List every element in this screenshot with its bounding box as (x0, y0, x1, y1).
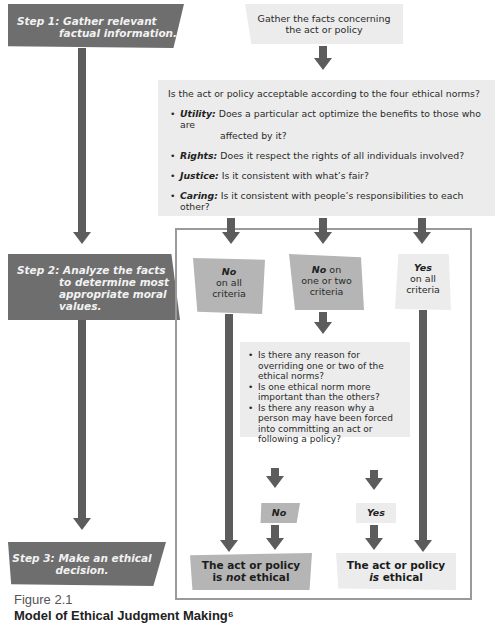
result-not-ethical: The act or policy is not ethical (190, 553, 312, 590)
arrow-down-icon (73, 518, 91, 530)
arrow-shaft (419, 310, 427, 542)
outcome-yes-all: Yes on all criteria (395, 254, 451, 310)
arrow-down-icon (266, 538, 284, 550)
figure-number: Figure 2.1 (14, 592, 73, 607)
result-ethical: The act or policy is ethical (336, 553, 456, 590)
norm-rights: Rights: Does it respect the rights of al… (168, 150, 495, 161)
arrow-down-icon (414, 540, 432, 552)
question-item: Is there any reason why a person may hav… (246, 403, 404, 445)
norms-question: Is the act or policy acceptable accordin… (168, 88, 495, 99)
step-3-banner: Step 3: Make an ethical decision. (8, 542, 166, 586)
arrow-down-icon (413, 232, 431, 244)
answer-no: No (258, 503, 300, 523)
question-item: Is one ethical norm more important than … (246, 382, 404, 403)
override-questions-box: Is there any reason for overriding one o… (240, 342, 410, 437)
arrow-down-icon (222, 232, 240, 244)
gather-facts-box: Gather the facts concerning the act or p… (245, 4, 403, 44)
step-2-banner: Step 2: Analyze the facts to determine m… (8, 254, 180, 320)
arrow-down-icon (314, 58, 332, 70)
outcome-no-all: No on all criteria (193, 258, 265, 314)
outcome-no-some: No on one or two criteria (289, 254, 364, 310)
arrow-shaft (225, 314, 233, 542)
figure-title: Model of Ethical Judgment Making⁶ (14, 608, 234, 623)
arrow-down-icon (365, 478, 383, 490)
arrow-down-icon (314, 322, 332, 334)
norm-justice: Justice: Is it consistent with what’s fa… (168, 170, 495, 181)
answer-yes: Yes (356, 503, 396, 523)
arrow-down-icon (220, 540, 238, 552)
ethical-norms-box: Is the act or policy acceptable accordin… (158, 80, 495, 216)
arrow-down-icon (314, 232, 332, 244)
step-connector-2 (78, 320, 86, 520)
step-1-banner: Step 1: Gather relevant factual informat… (8, 4, 184, 48)
arrow-down-icon (266, 476, 284, 488)
arrow-down-icon (365, 538, 383, 550)
step-connector-1 (78, 48, 86, 234)
arrow-down-icon (73, 232, 91, 244)
norm-caring: Caring: Is it consistent with people’s r… (168, 190, 495, 212)
norm-utility: Utility: Does a particular act optimize … (168, 108, 495, 141)
question-item: Is there any reason for overriding one o… (246, 350, 404, 382)
